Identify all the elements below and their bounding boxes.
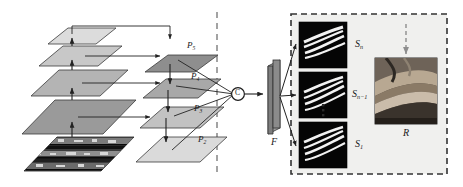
pyramid-top-down-arrows	[166, 64, 170, 142]
pyramid-levels	[136, 55, 227, 162]
feature-block	[268, 60, 280, 134]
label-result: R	[403, 128, 409, 138]
figure-root: P5 P4 P3 P2 C F Sn Sn−1 S1 R	[0, 0, 463, 187]
backbone-stack	[22, 28, 136, 134]
label-feature-block: F	[271, 137, 277, 147]
label-p5: P5	[187, 41, 195, 51]
label-p4: P4	[191, 72, 199, 82]
diagram-canvas	[0, 0, 463, 187]
ellipsis-dots	[322, 104, 324, 116]
label-p2: P2	[198, 135, 206, 145]
label-p3: P3	[194, 104, 202, 114]
segmentation-map-sn	[299, 22, 347, 68]
label-concat-node: C	[235, 89, 240, 97]
input-image-plane	[20, 134, 140, 174]
label-sn-minus-1: Sn−1	[352, 89, 367, 100]
label-sn: Sn	[355, 39, 363, 50]
label-s1: S1	[355, 139, 363, 150]
result-image	[375, 58, 437, 124]
segmentation-map-s1	[299, 122, 347, 168]
